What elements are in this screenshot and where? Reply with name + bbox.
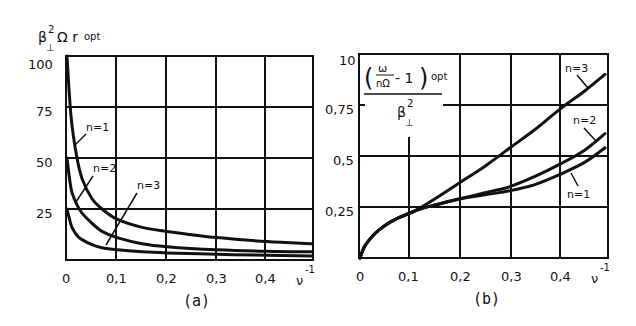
panel-b-label-n3: n=3 bbox=[565, 62, 588, 75]
panel-a: β 2 ⊥ Ω r opt 100 75 50 25 0 0,1 0,2 0,3… bbox=[28, 24, 315, 310]
panel-b-xtick-03: 0,3 bbox=[501, 269, 522, 284]
panel-b-ylabel-den-sup: 2 bbox=[407, 98, 413, 109]
panel-b: ( ω nΩ - 1 ) opt β 2 ⊥ 10 0,75 0,5 0,25 … bbox=[325, 53, 610, 308]
panel-a-xtick-03: 0,3 bbox=[206, 271, 227, 286]
panel-a-label-n3: n=3 bbox=[137, 179, 160, 192]
panel-a-ytick-50: 50 bbox=[36, 155, 53, 170]
panel-b-ylabel-den-sub: ⊥ bbox=[405, 117, 414, 128]
panel-a-ylabel-rest: Ω r bbox=[57, 29, 78, 45]
panel-b-label-n2: n=2 bbox=[573, 114, 596, 127]
panel-b-xlabel-sup: -1 bbox=[600, 262, 610, 273]
panel-b-leader-n3 bbox=[577, 75, 588, 88]
panel-b-ylabel-close-paren: ) bbox=[419, 64, 428, 92]
panel-b-xlabel: ν bbox=[591, 271, 598, 286]
panel-b-xtick-02: 0,2 bbox=[450, 269, 471, 284]
panel-b-curve-n3 bbox=[360, 74, 605, 258]
panel-a-leader-n1 bbox=[74, 134, 86, 146]
panel-a-xtick-04: 0,4 bbox=[255, 271, 276, 286]
panel-a-curve-n1 bbox=[67, 56, 312, 244]
panel-a-label-n2: n=2 bbox=[93, 162, 116, 175]
panel-a-caption: (a) bbox=[183, 292, 210, 310]
panel-a-ylabel-sub: ⊥ bbox=[46, 42, 55, 53]
panel-a-leader-n3 bbox=[106, 193, 137, 245]
panel-a-xtick-01: 0,1 bbox=[106, 271, 127, 286]
panel-b-xtick-04: 0,4 bbox=[550, 269, 571, 284]
panel-b-ylabel-minus-one: - 1 bbox=[395, 70, 413, 86]
panel-b-ytick-075: 0,75 bbox=[325, 102, 354, 117]
panel-a-ylabel-sup: 2 bbox=[48, 24, 54, 35]
panel-a-xtick-0: 0 bbox=[62, 271, 70, 286]
panel-b-ytick-05: 0,5 bbox=[333, 153, 354, 168]
panel-b-curve-n1 bbox=[360, 148, 605, 258]
panel-b-leader-n1 bbox=[571, 173, 578, 186]
panel-a-ylabel-opt: opt bbox=[84, 31, 100, 42]
panel-b-xtick-01: 0,1 bbox=[398, 269, 419, 284]
panel-b-caption: (b) bbox=[473, 290, 500, 308]
panel-b-xtick-0: 0 bbox=[356, 269, 364, 284]
panel-b-ylabel-omega: ω bbox=[378, 62, 387, 75]
panel-b-ylabel: ( ω nΩ - 1 ) opt β 2 ⊥ bbox=[364, 62, 447, 128]
panel-b-ytick-10: 10 bbox=[339, 53, 356, 68]
panel-a-ytick-25: 25 bbox=[36, 206, 53, 221]
panel-b-label-n1: n=1 bbox=[567, 188, 590, 201]
panel-a-label-n1: n=1 bbox=[86, 121, 109, 134]
panel-b-ylabel-n-omega: nΩ bbox=[376, 78, 390, 89]
panel-a-xlabel: ν bbox=[296, 273, 303, 288]
figure: β 2 ⊥ Ω r opt 100 75 50 25 0 0,1 0,2 0,3… bbox=[0, 0, 636, 326]
panel-a-xlabel-sup: -1 bbox=[305, 264, 315, 275]
panel-b-leader-n2 bbox=[584, 128, 596, 141]
panel-b-ytick-025: 0,25 bbox=[325, 204, 354, 219]
panel-b-ylabel-opt: opt bbox=[431, 71, 447, 82]
panel-b-ylabel-open-paren: ( bbox=[364, 64, 373, 92]
panel-a-xtick-02: 0,2 bbox=[156, 271, 177, 286]
panel-a-grid bbox=[66, 56, 313, 260]
panel-a-ytick-75: 75 bbox=[36, 104, 53, 119]
panel-a-ytick-100: 100 bbox=[28, 57, 53, 72]
